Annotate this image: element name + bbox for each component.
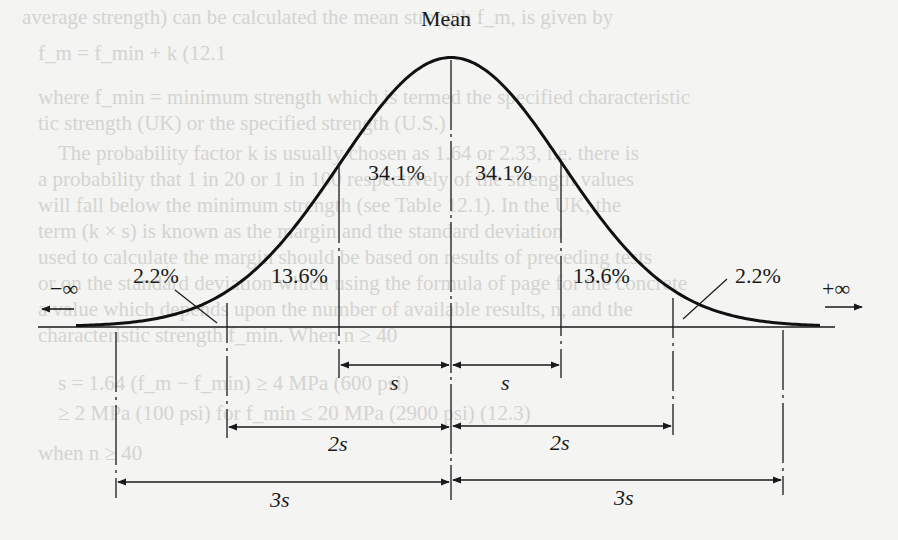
- region-label-left-2s: 13.6%: [271, 263, 328, 288]
- dimension-right-2s-label: 2s: [550, 430, 570, 455]
- region-label-right-1s: 34.1%: [475, 160, 532, 185]
- region-label-right-tail: 2.2%: [735, 263, 781, 288]
- region-label-right-2s: 13.6%: [573, 263, 630, 288]
- dimension-right-3s-label: 3s: [613, 485, 634, 510]
- normal-distribution-diagram: −∞ +∞ Mean 2.2% 13.6% 34.1% 34.1% 13.6% …: [0, 0, 898, 540]
- dimension-right-s-label: s: [501, 370, 510, 395]
- dimension-left-s-label: s: [390, 370, 399, 395]
- bell-curve: [76, 58, 820, 326]
- dimension-left-2s-label: 2s: [328, 431, 348, 456]
- plus-infinity-label: +∞: [822, 276, 850, 301]
- minus-infinity-label: −∞: [50, 276, 78, 301]
- left-tail-leader: [175, 290, 217, 323]
- dimension-left-3s-label: 3s: [269, 487, 290, 512]
- region-label-left-1s: 34.1%: [368, 160, 425, 185]
- region-label-left-tail: 2.2%: [133, 263, 179, 288]
- mean-label: Mean: [421, 6, 471, 31]
